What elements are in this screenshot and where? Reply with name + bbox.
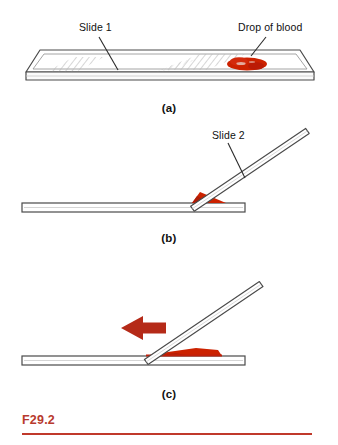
panel-label-c: (c) [0, 389, 338, 401]
slide-2-angled-b [191, 128, 310, 211]
callout-label-slide-1: Slide 1 [79, 22, 112, 33]
panel-a-artwork [26, 37, 314, 80]
callout-label-drop-of-blood: Drop of blood [238, 22, 302, 33]
callout-label-slide-2: Slide 2 [212, 130, 245, 141]
panel-b-artwork [22, 128, 309, 212]
panel-c-artwork [22, 282, 263, 365]
push-direction-arrow [121, 316, 166, 340]
figure-container: Slide 1 Drop of blood Slide 2 (a) (b) (c… [0, 0, 338, 445]
slide-2-leader-line [228, 143, 245, 178]
panel-label-a: (a) [0, 103, 338, 115]
figure-number: F29.2 [22, 414, 55, 427]
panel-label-b: (b) [0, 233, 338, 245]
figure-artwork [0, 0, 338, 445]
